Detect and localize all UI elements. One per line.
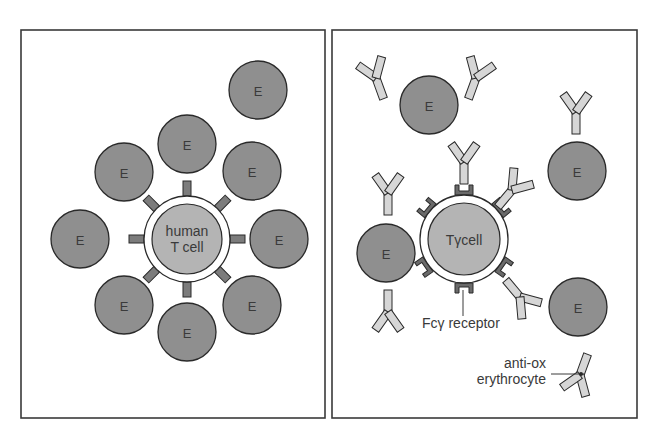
human-t-cell-label-line2: T cell bbox=[170, 239, 203, 255]
svg-text:E: E bbox=[574, 301, 583, 316]
svg-text:E: E bbox=[183, 138, 192, 153]
svg-text:E: E bbox=[425, 99, 434, 114]
svg-text:E: E bbox=[183, 326, 192, 341]
svg-text:E: E bbox=[120, 299, 129, 314]
erythrocyte: E bbox=[400, 76, 458, 134]
fc-receptor-label: Fcγ receptor bbox=[422, 315, 500, 331]
erythrocyte: E bbox=[158, 303, 216, 361]
erythrocyte: E bbox=[95, 143, 153, 201]
antibody-label-line1: anti-ox bbox=[504, 355, 546, 371]
erythrocyte: E bbox=[549, 278, 607, 336]
antibody-label-line2: erythrocyte bbox=[477, 371, 546, 387]
svg-text:E: E bbox=[275, 233, 284, 248]
svg-text:E: E bbox=[76, 233, 85, 248]
svg-text:E: E bbox=[120, 166, 129, 181]
erythrocyte: E bbox=[250, 210, 308, 268]
panel-left: human T cell E E E E E E E E E bbox=[21, 30, 325, 418]
human-t-cell-label-line1: human bbox=[166, 223, 209, 239]
svg-text:E: E bbox=[248, 299, 257, 314]
erythrocyte: E bbox=[51, 210, 109, 268]
erythrocyte: E bbox=[357, 224, 415, 282]
svg-text:E: E bbox=[254, 84, 263, 99]
diagram-canvas: human T cell E E E E E E E E E bbox=[0, 0, 659, 438]
t-gamma-cell-label: Tγcell bbox=[446, 232, 483, 248]
svg-text:E: E bbox=[248, 165, 257, 180]
svg-text:E: E bbox=[382, 247, 391, 262]
svg-text:E: E bbox=[573, 165, 582, 180]
t-gamma-cell: Tγcell bbox=[420, 195, 508, 283]
erythrocyte: E bbox=[95, 276, 153, 334]
erythrocyte: E bbox=[223, 142, 281, 200]
panel-right: Tγcell E E E E bbox=[332, 30, 637, 418]
erythrocyte-unbound: E bbox=[229, 61, 287, 119]
erythrocyte: E bbox=[548, 142, 606, 200]
erythrocyte: E bbox=[223, 276, 281, 334]
erythrocyte: E bbox=[158, 115, 216, 173]
human-t-cell: human T cell bbox=[144, 196, 230, 282]
